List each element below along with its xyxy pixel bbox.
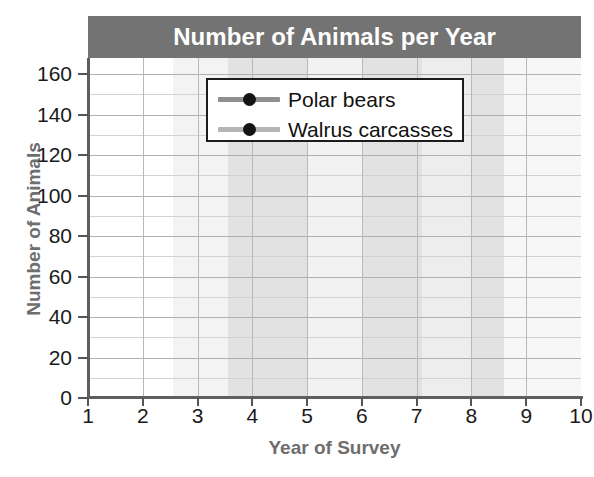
- legend-label-polar-bears: Polar bears: [288, 89, 395, 110]
- y-tick-label: 80: [2, 225, 72, 246]
- gridline-horizontal: [88, 236, 581, 237]
- y-tick: [78, 154, 88, 156]
- x-tick-label: 2: [123, 404, 163, 428]
- gridline-horizontal: [88, 155, 581, 156]
- gridline-horizontal: [88, 74, 581, 75]
- gridline-horizontal: [88, 297, 581, 298]
- chart-title: Number of Animals per Year: [173, 23, 496, 51]
- y-axis-line: [87, 58, 90, 399]
- x-tick-label: 4: [232, 404, 272, 428]
- gridline-vertical: [198, 58, 199, 398]
- gridline-vertical: [471, 58, 472, 398]
- y-tick: [78, 357, 88, 359]
- plot-band: [471, 58, 504, 398]
- y-tick-label: 120: [2, 144, 72, 165]
- legend-item-walrus-carcasses: Walrus carcasses: [218, 114, 452, 144]
- x-tick-label: 9: [506, 404, 546, 428]
- y-tick-label: 20: [2, 347, 72, 368]
- y-tick: [78, 276, 88, 278]
- legend-label-walrus-carcasses: Walrus carcasses: [288, 119, 453, 140]
- x-axis-title: Year of Survey: [88, 437, 581, 459]
- y-tick: [78, 114, 88, 116]
- y-tick-label: 0: [2, 387, 72, 408]
- gridline-horizontal: [88, 378, 581, 379]
- plot-band: [88, 58, 173, 398]
- gridline-horizontal: [88, 256, 581, 257]
- gridline-horizontal: [88, 277, 581, 278]
- chart-legend: Polar bears Walrus carcasses: [206, 78, 464, 142]
- gridline-horizontal: [88, 317, 581, 318]
- x-tick-label: 10: [561, 404, 594, 428]
- x-tick-label: 6: [342, 404, 382, 428]
- y-tick-label: 160: [2, 63, 72, 84]
- plot-band: [504, 58, 581, 398]
- x-tick-label: 3: [178, 404, 218, 428]
- gridline-horizontal: [88, 358, 581, 359]
- chart-title-band: Number of Animals per Year: [88, 16, 581, 58]
- x-tick-label: 7: [397, 404, 437, 428]
- y-tick-label: 40: [2, 306, 72, 327]
- gridline-vertical: [143, 58, 144, 398]
- gridline-horizontal: [88, 337, 581, 338]
- y-tick-label: 100: [2, 185, 72, 206]
- x-tick-label: 1: [68, 404, 108, 428]
- y-tick: [78, 73, 88, 75]
- x-tick-label: 5: [287, 404, 327, 428]
- x-tick-label: 8: [451, 404, 491, 428]
- legend-item-polar-bears: Polar bears: [218, 84, 452, 114]
- legend-swatch-walrus-carcasses: [218, 118, 280, 140]
- chart-container: Number of Animals per Year Number of Ani…: [0, 0, 594, 477]
- gridline-vertical: [526, 58, 527, 398]
- x-axis-line: [88, 396, 583, 399]
- legend-swatch-polar-bears: [218, 88, 280, 110]
- gridline-horizontal: [88, 175, 581, 176]
- y-tick-label: 140: [2, 104, 72, 125]
- gridline-horizontal: [88, 216, 581, 217]
- gridline-horizontal: [88, 196, 581, 197]
- y-tick: [78, 235, 88, 237]
- y-tick: [78, 195, 88, 197]
- y-tick-label: 60: [2, 266, 72, 287]
- y-tick: [78, 316, 88, 318]
